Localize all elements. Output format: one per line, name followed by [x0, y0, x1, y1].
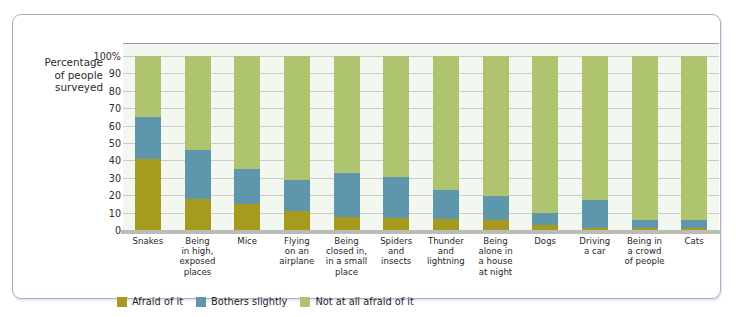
bar-stack	[334, 56, 360, 230]
bar-segment	[284, 180, 310, 211]
legend-color-swatch	[117, 297, 127, 307]
x-axis-category-label-line: closed in,	[319, 246, 375, 256]
bar-segment	[185, 199, 211, 230]
bar-stack	[483, 56, 509, 230]
bar-segment	[185, 56, 211, 150]
x-axis-category-label-line: places	[170, 267, 226, 277]
gridline	[123, 108, 719, 109]
bar-segment	[681, 56, 707, 220]
bar-segment	[433, 219, 459, 230]
y-axis-tick-label: 40	[109, 155, 121, 166]
bar-segment	[234, 169, 260, 204]
x-axis-category-label-line: Dogs	[517, 236, 573, 246]
bar-segment	[582, 56, 608, 200]
x-axis-category-label-line: of people	[617, 256, 673, 266]
x-axis-category-label-line: Mice	[219, 236, 275, 246]
bar-segment	[383, 56, 409, 177]
bar-segment	[681, 220, 707, 228]
bar-segment	[234, 204, 260, 230]
x-axis-category-label-line: a crowd	[617, 246, 673, 256]
bar-segment	[334, 56, 360, 173]
x-axis-category-label-line: a car	[567, 246, 623, 256]
x-axis-category-label: Snakes	[120, 236, 176, 246]
bar-stack	[632, 56, 658, 230]
bar-stack	[433, 56, 459, 230]
x-axis-category-label: Thunderandlightning	[418, 236, 474, 267]
x-axis-category-label-line: Being	[468, 236, 524, 246]
bar-stack	[532, 56, 558, 230]
bar-segment	[284, 56, 310, 180]
gridline	[123, 73, 719, 74]
chart-legend: Afraid of itBothers slightlyNot at all a…	[117, 296, 414, 307]
y-axis-tick-label: 90	[109, 68, 121, 79]
bar-stack	[234, 56, 260, 230]
x-axis-category-label: Being ina crowdof people	[617, 236, 673, 267]
bar-segment	[135, 159, 161, 230]
gridline	[123, 91, 719, 92]
bar-segment	[582, 200, 608, 228]
bar-segment	[433, 56, 459, 190]
x-axis-category-label-line: Being	[319, 236, 375, 246]
legend-item: Not at all afraid of it	[300, 296, 413, 307]
x-axis-category-label-line: Flying	[269, 236, 325, 246]
x-axis-category-label-line: Cats	[666, 236, 722, 246]
x-axis-category-label-line: and	[368, 246, 424, 256]
gridline	[123, 178, 719, 179]
x-axis-category-label: Beingalone ina houseat night	[468, 236, 524, 277]
y-axis-tick-labels: 100%9080706050403020100	[91, 45, 121, 240]
bar-segment	[532, 213, 558, 225]
x-axis-category-label: Mice	[219, 236, 275, 246]
x-axis-category-label: Dogs	[517, 236, 573, 246]
x-axis-category-label-line: insects	[368, 256, 424, 266]
x-axis-category-label-line: Being in	[617, 236, 673, 246]
x-axis-category-label-line: in high,	[170, 246, 226, 256]
gridline	[123, 56, 719, 57]
x-axis-category-label: Drivinga car	[567, 236, 623, 256]
x-axis-line	[121, 230, 721, 234]
bar-segment	[483, 220, 509, 230]
y-axis-tick-label: 100%	[94, 51, 121, 62]
x-axis-category-label-line: in a small	[319, 256, 375, 266]
bar-stack	[135, 56, 161, 230]
y-axis-tick-label: 10	[109, 207, 121, 218]
y-axis-tick-label: 70	[109, 103, 121, 114]
bar-segment	[632, 56, 658, 220]
y-axis-tick-label: 30	[109, 172, 121, 183]
x-axis-category-label: Beingclosed in,in a smallplace	[319, 236, 375, 277]
x-axis-category-label-line: and	[418, 246, 474, 256]
legend-label: Bothers slightly	[211, 296, 287, 307]
gridline	[123, 160, 719, 161]
x-axis-category-label-line: airplane	[269, 256, 325, 266]
bar-segment	[632, 220, 658, 229]
x-axis-category-label: Spidersandinsects	[368, 236, 424, 267]
gridline	[123, 126, 719, 127]
bar-segment	[185, 150, 211, 199]
bar-segment	[334, 173, 360, 217]
x-axis-category-label-line: place	[319, 267, 375, 277]
x-axis-category-label-line: at night	[468, 267, 524, 277]
bar-segment	[483, 196, 509, 220]
x-axis-category-label-line: Being	[170, 236, 226, 246]
plot-area	[123, 56, 719, 230]
x-axis-category-label-line: lightning	[418, 256, 474, 266]
bar-stack	[383, 56, 409, 230]
legend-color-swatch	[196, 297, 206, 307]
legend-label: Not at all afraid of it	[315, 296, 413, 307]
gridline	[123, 195, 719, 196]
legend-item: Afraid of it	[117, 296, 183, 307]
gridline	[123, 143, 719, 144]
legend-label: Afraid of it	[132, 296, 183, 307]
chart-figure-frame: Percentageof peoplesurveyed 100%90807060…	[12, 14, 721, 299]
x-axis-category-label-line: Driving	[567, 236, 623, 246]
x-axis-category-label: Flyingon anairplane	[269, 236, 325, 267]
legend-item: Bothers slightly	[196, 296, 287, 307]
x-axis-category-label-line: on an	[269, 246, 325, 256]
bar-segment	[483, 56, 509, 196]
bar-segment	[135, 117, 161, 159]
bar-stack	[284, 56, 310, 230]
bar-segment	[532, 56, 558, 213]
bar-segment	[234, 56, 260, 169]
bar-stack	[185, 56, 211, 230]
y-axis-tick-label: 80	[109, 85, 121, 96]
bar-stack	[681, 56, 707, 230]
